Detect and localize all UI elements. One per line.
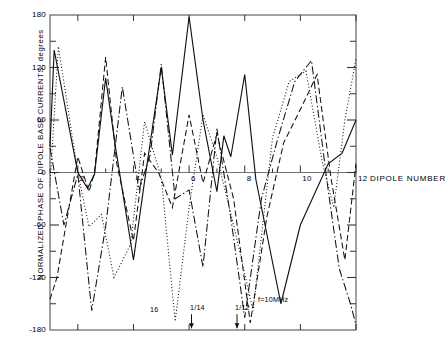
x-tick-label-10: 10 [302,174,311,183]
trough-arrow-0 [189,323,194,328]
curve-label-14: 1/14 [190,303,205,312]
y-tick-label-neg180: -180 [29,325,46,334]
x-tick-label-4: 4 [135,174,140,183]
y-tick-label-120: 120 [32,63,46,72]
curve-label-f10mhz: f=10MHz [258,295,288,304]
y-tick-label-0: 0 [41,168,46,177]
y-tick-label-neg120: -120 [29,273,46,282]
series-line-16 [50,47,356,322]
x-tick-label-6: 6 [191,174,196,183]
curve-label-12: 1/12 [235,303,250,312]
trough-arrow-1 [235,323,240,328]
x-tick-label-2: 2 [80,174,85,183]
x-axis-title: DIPOLE NUMBER [370,174,446,183]
y-tick-label-neg60: -60 [34,220,46,229]
curve-label-16: 16 [150,305,158,314]
x-tick-label-8: 8 [247,174,252,183]
series-line-112 [50,61,356,325]
x-tick-label-12: 12 [358,174,367,183]
y-tick-label-60: 60 [37,115,46,124]
y-tick-label-180: 180 [32,10,46,19]
